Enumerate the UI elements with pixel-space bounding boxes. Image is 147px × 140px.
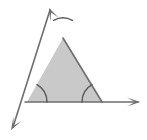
geometry-canvas (0, 0, 147, 140)
apex-angle-arc (54, 18, 73, 20)
geometry-figure (0, 0, 147, 140)
left-transversal-line (13, 10, 50, 127)
